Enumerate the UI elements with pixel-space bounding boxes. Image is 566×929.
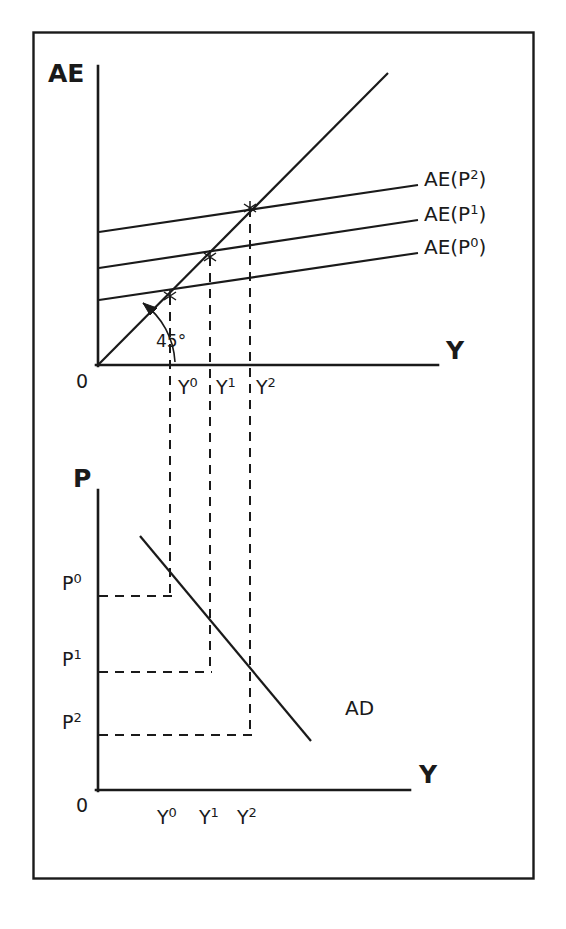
bottom-xtick-y0-base: Y [156, 806, 169, 828]
bottom-origin-label: 0 [76, 794, 88, 816]
bottom-xtick-y1-base: Y [198, 806, 211, 828]
bottom-ytick-p1-sup: 1 [73, 647, 81, 662]
ae-label-p2-sup: 2 [470, 167, 478, 182]
top-x-axis-title: Y [445, 336, 465, 365]
economics-diagram-svg: AE Y 0 45° AE(P2) AE(P1) AE(P0) Y [0, 0, 566, 929]
figure-border [34, 33, 534, 879]
bottom-ytick-p0-base: P [62, 572, 73, 594]
bottom-x-axis-title: Y [418, 760, 438, 789]
bottom-xtick-y2-sup: 2 [249, 805, 257, 820]
bottom-ytick-p0-sup: 0 [73, 571, 81, 586]
top-xtick-y1-sup: 1 [228, 375, 236, 390]
top-xtick-y0-base: Y [177, 376, 190, 398]
bottom-xtick-y2-base: Y [236, 806, 249, 828]
bottom-xtick-y0-sup: 0 [169, 805, 177, 820]
ae-label-p0-close: ) [478, 235, 486, 259]
bottom-y-axis-title: P [73, 464, 91, 493]
top-xtick-y0-sup: 0 [190, 375, 198, 390]
ae-label-p2-close: ) [478, 167, 486, 191]
bottom-xtick-y1-sup: 1 [211, 805, 219, 820]
ae-label-p1-close: ) [478, 202, 486, 226]
ae-label-p0-base: AE(P [424, 235, 470, 259]
angle-label-45deg: 45° [156, 331, 186, 351]
bottom-ytick-p1-base: P [62, 648, 73, 670]
ae-label-p0-sup: 0 [470, 235, 478, 250]
figure-container: AE Y 0 45° AE(P2) AE(P1) AE(P0) Y [0, 0, 566, 929]
top-xtick-y1-base: Y [215, 376, 228, 398]
top-xtick-y2-sup: 2 [268, 375, 276, 390]
ae-label-p1-base: AE(P [424, 202, 470, 226]
top-origin-label: 0 [76, 370, 88, 392]
bottom-ytick-p2-sup: 2 [73, 710, 81, 725]
ae-label-p1-sup: 1 [470, 202, 478, 217]
top-y-axis-title: AE [48, 59, 84, 88]
ad-curve-label: AD [345, 696, 374, 720]
top-xtick-y2-base: Y [255, 376, 268, 398]
ae-label-p2-base: AE(P [424, 167, 470, 191]
bottom-ytick-p2-base: P [62, 711, 73, 733]
